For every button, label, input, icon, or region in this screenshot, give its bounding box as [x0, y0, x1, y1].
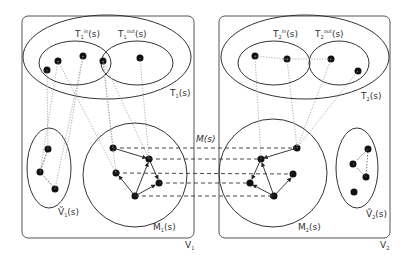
label-t1: T1(s): [169, 88, 190, 99]
region-t2-in: [238, 41, 310, 85]
label-t2: T2(s): [360, 91, 381, 102]
region-t1-out: [101, 41, 173, 85]
t1-nodes: [44, 53, 144, 74]
label-m1: M1(s): [153, 222, 176, 233]
region-v1-remaining: [27, 128, 71, 208]
label-v1-remaining: Ṽ1(s): [58, 206, 79, 218]
m2-nodes: [247, 145, 301, 200]
region-t2-out: [309, 41, 369, 85]
region-v2-remaining: [336, 128, 378, 208]
v2-remaining-nodes: [350, 146, 372, 196]
label-v2-remaining: Ṽ2(s): [366, 208, 387, 220]
graph-v1: T1in(s) T1out(s) T1(s) Ṽ1(s) M1(s) V1: [22, 15, 194, 251]
v1-dotted-links: [40, 56, 149, 189]
label-mapping: M(s): [196, 134, 215, 144]
t2-nodes: [252, 53, 362, 75]
region-m2: [219, 119, 327, 227]
v1-remaining-nodes: [37, 146, 59, 193]
label-t2-out: T2out(s): [314, 28, 344, 40]
label-t2-in: T2in(s): [272, 28, 298, 40]
mapping-lines: [113, 148, 297, 196]
t2-dotted-edges: [255, 56, 331, 59]
state-space-diagram: T1in(s) T1out(s) T1(s) Ṽ1(s) M1(s) V1: [0, 0, 410, 263]
label-t1-out: T1out(s): [117, 28, 147, 40]
label-v1: V1: [185, 240, 194, 251]
m1-edges: [113, 148, 158, 196]
region-t1: [23, 15, 191, 99]
label-v2: V2: [380, 240, 389, 251]
label-m2: M2(s): [298, 222, 321, 233]
graph-v2: T2in(s) T2out(s) T2(s) Ṽ2(s) M2(s) V2: [219, 15, 390, 251]
label-t1-in: T1in(s): [74, 28, 100, 40]
region-t2: [221, 15, 389, 99]
v2-dotted-links: [255, 56, 358, 159]
